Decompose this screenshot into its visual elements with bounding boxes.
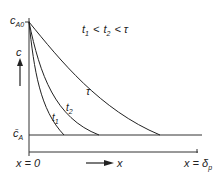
curve-tau [29, 22, 160, 135]
x-start-label: x = 0 [15, 157, 41, 169]
diagram-canvas: cA0 c c̄A x = 0 x x = δp t1<t2<τ t1 t2 τ [0, 0, 221, 178]
ca0-label: cA0 [10, 14, 24, 28]
y-axis-label: c [16, 46, 22, 58]
x-axis-label: x [116, 157, 123, 169]
x-arrow-head-icon [104, 160, 114, 166]
curve-t2 [29, 22, 99, 135]
inequality-label: t1<t2<τ [82, 23, 129, 37]
curve-tau-label: τ [86, 85, 91, 97]
curve-t1-label: t1 [52, 112, 59, 125]
ca-bar-label: c̄A [13, 127, 24, 141]
x-end-label: x = δp [183, 157, 212, 172]
c-arrow-head-icon [17, 58, 23, 66]
curve-t1 [29, 22, 64, 135]
